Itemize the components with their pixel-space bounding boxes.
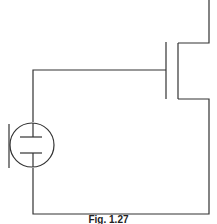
figure-caption: Fig. 1.27 xyxy=(0,214,217,224)
voltage-source-icon xyxy=(10,123,54,167)
source-wire xyxy=(33,99,209,214)
circuit-diagram xyxy=(0,0,217,224)
drain-wire xyxy=(178,0,209,43)
gate-wire xyxy=(33,70,166,122)
